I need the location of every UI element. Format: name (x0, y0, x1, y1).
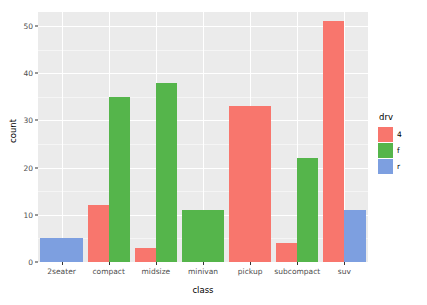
legend-items: 4fr (378, 126, 424, 174)
bar-group (135, 12, 177, 262)
y-tick-label: 0 (28, 258, 33, 267)
x-tick-label: pickup (238, 267, 263, 276)
bar-group (40, 12, 82, 262)
bar[interactable] (344, 210, 365, 262)
legend-item[interactable]: f (378, 142, 424, 158)
x-tick-mark (203, 262, 204, 265)
bar-group (182, 12, 224, 262)
y-tick-label: 30 (23, 116, 33, 125)
bar[interactable] (276, 243, 297, 262)
legend-title: drv (378, 112, 424, 122)
y-tick-label: 10 (23, 210, 33, 219)
bar[interactable] (109, 97, 130, 262)
x-axis: 2seatercompactmidsizeminivanpickupsubcom… (38, 262, 368, 286)
bar[interactable] (40, 238, 82, 262)
bar-group (88, 12, 130, 262)
x-tick-mark (62, 262, 63, 265)
bar[interactable] (297, 158, 318, 262)
bar[interactable] (135, 248, 156, 262)
x-tick-mark (109, 262, 110, 265)
bar-group (229, 12, 271, 262)
bar[interactable] (229, 106, 271, 262)
plot-panel (38, 12, 368, 262)
bar[interactable] (156, 83, 177, 262)
legend-label: f (397, 146, 400, 155)
x-tick-label: suv (338, 267, 351, 276)
x-tick-label: compact (92, 267, 124, 276)
y-tick-label: 40 (23, 69, 33, 78)
legend-label: 4 (397, 130, 402, 139)
legend-label: r (397, 162, 400, 171)
bar[interactable] (88, 205, 109, 262)
x-tick-mark (250, 262, 251, 265)
x-tick-mark (156, 262, 157, 265)
x-tick-label: minivan (188, 267, 218, 276)
legend: drv 4fr (378, 112, 424, 174)
legend-key-swatch (378, 143, 393, 158)
y-tick-label: 20 (23, 163, 33, 172)
x-tick-label: subcompact (274, 267, 320, 276)
x-tick-label: 2seater (47, 267, 76, 276)
y-axis: 01020304050 (0, 0, 38, 305)
legend-item[interactable]: r (378, 158, 424, 174)
x-tick-mark (297, 262, 298, 265)
bar-group (276, 12, 318, 262)
x-axis-title: class (38, 285, 368, 295)
y-tick-label: 50 (23, 22, 33, 31)
x-tick-label: midsize (141, 267, 170, 276)
x-tick-mark (344, 262, 345, 265)
bar-chart: count 01020304050 2seatercompactmidsizem… (0, 0, 427, 305)
legend-key-swatch (378, 127, 393, 142)
bar[interactable] (323, 21, 344, 262)
bar[interactable] (182, 210, 224, 262)
legend-item[interactable]: 4 (378, 126, 424, 142)
bar-group (323, 12, 365, 262)
legend-key-swatch (378, 159, 393, 174)
